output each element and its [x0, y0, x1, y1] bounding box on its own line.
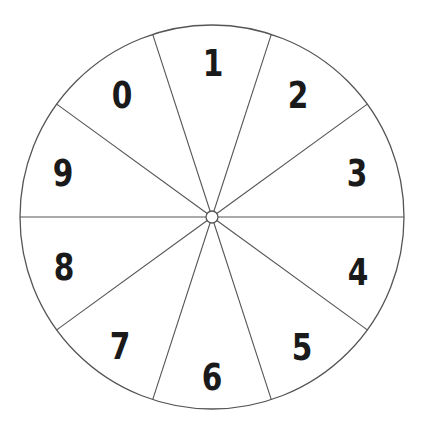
sector-label-9: 9: [53, 154, 74, 192]
sector-label-2: 2: [288, 76, 309, 114]
sector-label-3: 3: [347, 154, 368, 192]
sector-label-8: 8: [54, 248, 75, 286]
center-hub: [206, 211, 218, 223]
sector-label-4: 4: [348, 253, 369, 291]
sector-label-1: 1: [203, 44, 224, 82]
sector-label-6: 6: [202, 358, 223, 396]
sector-label-0: 0: [112, 76, 133, 114]
sector-label-7: 7: [110, 327, 131, 365]
sector-label-5: 5: [292, 328, 313, 366]
